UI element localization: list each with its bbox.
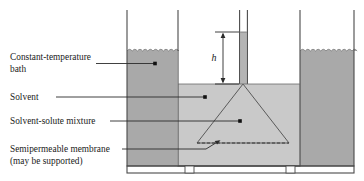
label-mixture: Solvent-solute mixture (10, 116, 95, 126)
bath-liquid-right (300, 51, 354, 166)
height-label: h (212, 52, 217, 63)
figure-container: h Constant-temperature bath Solvent Solv… (0, 0, 364, 181)
outer-tank-floor (127, 166, 354, 173)
label-membrane-line1: Semipermeable membrane (10, 144, 110, 154)
support-foot-left (185, 166, 194, 173)
height-arrowhead-down (221, 78, 226, 84)
bath-surface-right (300, 49, 357, 51)
osmotic-pressure-diagram: h Constant-temperature bath Solvent Solv… (0, 0, 364, 181)
label-bath-line2: bath (10, 64, 26, 74)
label-membrane-line2: (may be supported) (10, 156, 83, 167)
height-arrowhead-up (221, 33, 226, 39)
solvent-liquid (178, 84, 300, 166)
label-bath-line1: Constant-temperature (10, 52, 91, 62)
dot-solvent (203, 95, 207, 99)
label-solvent: Solvent (10, 92, 39, 102)
dot-bath (153, 62, 157, 66)
dot-mixture (238, 119, 242, 123)
capillary-liquid (240, 32, 247, 84)
support-foot-right (286, 166, 295, 173)
bath-surface-left (127, 49, 179, 51)
height-dimension: h (212, 32, 240, 84)
